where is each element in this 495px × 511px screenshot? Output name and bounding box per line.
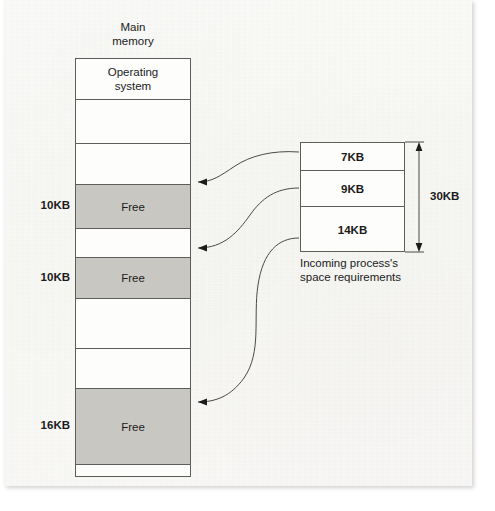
memory-block-9 bbox=[76, 465, 190, 508]
memory-block-label-5: Free bbox=[121, 271, 145, 285]
memory-block-5: Free bbox=[76, 258, 190, 299]
main-memory-column: Operating systemFreeFreeFree bbox=[75, 58, 191, 477]
memory-size-label-10kb-b: 10KB bbox=[0, 271, 70, 283]
caption-line-1: Incoming process's bbox=[300, 256, 450, 270]
main-memory-title: Main memory bbox=[75, 20, 191, 48]
process-segment-0: 7KB bbox=[301, 143, 404, 171]
memory-block-8: Free bbox=[76, 389, 190, 465]
memory-block-label-3: Free bbox=[121, 200, 145, 214]
process-segment-2: 14KB bbox=[301, 207, 404, 253]
process-segment-1: 9KB bbox=[301, 171, 404, 207]
process-segment-label-2: 14KB bbox=[338, 224, 367, 236]
memory-block-0: Operating system bbox=[76, 59, 190, 100]
incoming-process-caption: Incoming process's space requirements bbox=[300, 256, 450, 284]
incoming-process-column: 7KB9KB14KB bbox=[300, 142, 405, 252]
memory-size-label-10kb-a: 10KB bbox=[0, 199, 70, 211]
memory-block-label-0: Operating system bbox=[108, 65, 159, 93]
memory-size-label-16kb: 16KB bbox=[0, 419, 70, 431]
memory-block-1 bbox=[76, 100, 190, 144]
caption-line-2: space requirements bbox=[300, 270, 450, 284]
memory-block-7 bbox=[76, 349, 190, 389]
memory-block-4 bbox=[76, 229, 190, 258]
process-segment-label-1: 9KB bbox=[341, 183, 364, 195]
process-segment-label-0: 7KB bbox=[341, 151, 364, 163]
memory-block-label-8: Free bbox=[121, 420, 145, 434]
total-size-label: 30KB bbox=[430, 190, 459, 202]
memory-block-2 bbox=[76, 144, 190, 185]
figure-canvas: Main memory Operating systemFreeFreeFree… bbox=[0, 0, 495, 511]
memory-block-3: Free bbox=[76, 185, 190, 229]
memory-block-6 bbox=[76, 299, 190, 349]
